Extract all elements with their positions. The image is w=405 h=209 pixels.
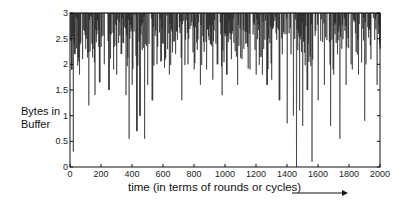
x-tick-label: 0	[67, 169, 72, 179]
x-tick-label: 1200	[246, 169, 266, 179]
x-tick-label: 600	[155, 169, 170, 179]
y-tick-label: 2.5	[55, 34, 68, 44]
x-axis-label: time (in terms of rounds or cycles)	[128, 181, 301, 193]
x-tick-label: 2000	[370, 169, 390, 179]
y-tick-label: 1.5	[55, 85, 68, 95]
y-tick-label: 0.5	[55, 136, 68, 146]
y-tick-label: 2	[63, 59, 68, 69]
x-tick-label: 1400	[277, 169, 297, 179]
x-tick-label: 400	[124, 169, 139, 179]
y-tick-label: 3	[63, 8, 68, 18]
y-axis-label: Bytes in Buffer	[21, 105, 67, 131]
x-tick-label: 1800	[339, 169, 359, 179]
y-axis-label-text: Bytes in Buffer	[21, 105, 67, 131]
x-tick-label: 1000	[215, 169, 235, 179]
series-line	[70, 13, 381, 167]
data-series	[70, 13, 381, 167]
x-tick-label: 200	[93, 169, 108, 179]
x-tick-label: 800	[186, 169, 201, 179]
x-axis: 0200400600800100012001400160018002000	[67, 164, 390, 179]
x-tick-label: 1600	[308, 169, 328, 179]
